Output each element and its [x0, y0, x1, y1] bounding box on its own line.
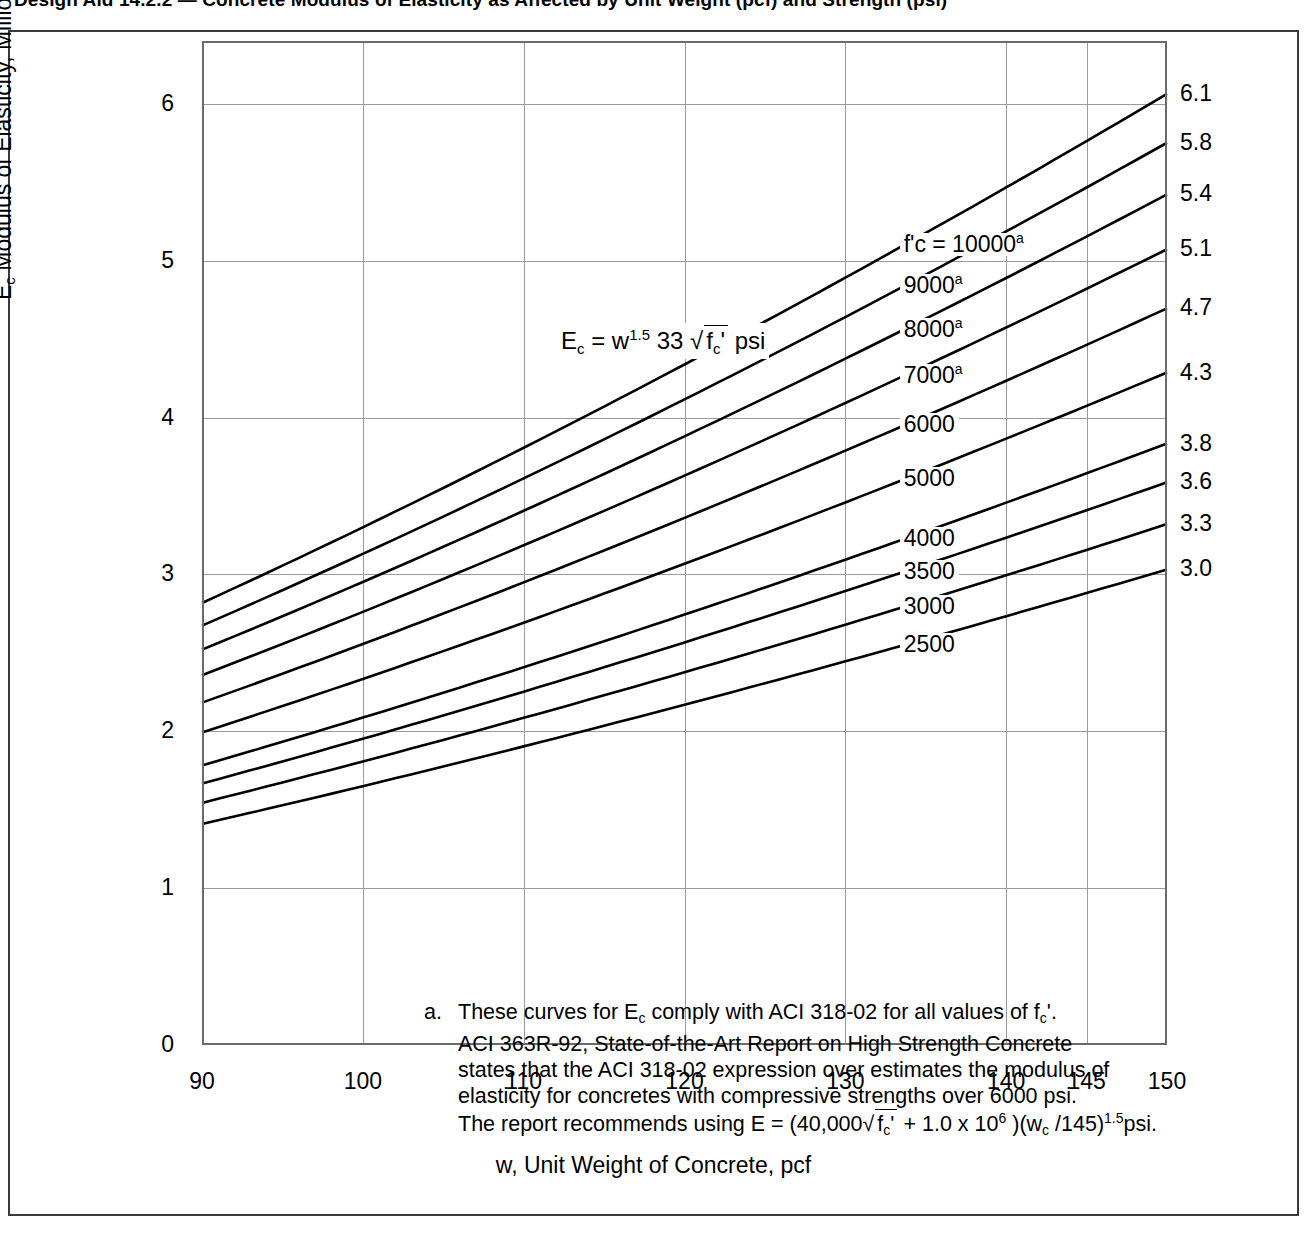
page-title-bar: Design Aid 14.2.2 — Concrete Modulus of … [0, 0, 1307, 13]
y-tick-label-1: 1 [130, 876, 174, 899]
curve-label-text: 6000 [904, 411, 955, 437]
end-value-fc-4000: 3.8 [1180, 432, 1212, 455]
footnote-line-2: ACI 363R-92, State-of-the-Art Report on … [458, 1031, 1164, 1057]
end-value-fc-3000: 3.3 [1180, 512, 1212, 535]
curve-layer [202, 41, 1167, 1045]
curve-label-text: 9000 [904, 272, 955, 298]
equation-lhs: E [561, 327, 577, 354]
curve-label-text: 8000 [904, 316, 955, 342]
y-axis-title: Ec Modulus of Elasticity, Million psi [0, 0, 18, 300]
end-value-fc-5000: 4.3 [1180, 361, 1212, 384]
curve-label-text: f'c = 10000 [904, 231, 1016, 257]
curve-label-fc-3500: 3500 [900, 560, 959, 583]
equation-radicand: fc' [704, 325, 728, 357]
y-tick-label-3: 3 [130, 562, 174, 585]
equation-units: psi [728, 327, 765, 354]
curve-fc-2500 [202, 569, 1167, 824]
curve-label-fc-6000: 6000 [900, 413, 959, 436]
equation-eq: = w [585, 327, 630, 354]
equation-lhs-sub: c [577, 340, 585, 357]
curve-fc-4000 [202, 444, 1167, 766]
x-tick-label-145: 145 [1047, 1070, 1127, 1093]
y-tick-label-5: 5 [130, 249, 174, 272]
curve-fc-8000 [202, 194, 1167, 649]
x-tick-label-130: 130 [805, 1070, 885, 1093]
curve-fc-5000 [202, 373, 1167, 733]
curve-label-fc-9000: 9000a [900, 274, 967, 297]
plot-area: f'c = 10000a9000a8000a7000a6000500040003… [202, 41, 1167, 1045]
footnote-superscript: a [955, 315, 963, 331]
x-tick-label-110: 110 [484, 1070, 564, 1093]
sqrt-icon: √ [863, 1112, 875, 1136]
equation-coefficient: 33 [650, 327, 690, 354]
x-tick-label-140: 140 [966, 1070, 1046, 1093]
end-value-fc-7000: 5.1 [1180, 237, 1212, 260]
footnote-line-5: The report recommends using E = (40,000√… [458, 1109, 1164, 1143]
curve-label-text: 3000 [904, 593, 955, 619]
page-title: Design Aid 14.2.2 — Concrete Modulus of … [14, 0, 947, 11]
x-axis-title: w, Unit Weight of Concrete, pcf [0, 1152, 1307, 1179]
x-tick-label-100: 100 [323, 1070, 403, 1093]
curve-label-fc-8000: 8000a [900, 318, 967, 341]
end-value-fc-2500: 3.0 [1180, 557, 1212, 580]
curve-label-fc-10000: f'c = 10000a [900, 233, 1028, 256]
y-tick-label-0: 0 [130, 1033, 174, 1056]
curve-label-fc-3000: 3000 [900, 595, 959, 618]
curve-label-text: 4000 [904, 525, 955, 551]
end-value-fc-9000: 5.8 [1180, 131, 1212, 154]
curve-label-fc-5000: 5000 [900, 467, 959, 490]
end-value-fc-6000: 4.7 [1180, 296, 1212, 319]
equation-w-exponent: 1.5 [629, 326, 650, 343]
end-value-fc-10000: 6.1 [1180, 82, 1212, 105]
curve-label-text: 7000 [904, 362, 955, 388]
y-tick-label-4: 4 [130, 406, 174, 429]
footnote-line-1-text: These curves for Ec comply with ACI 318-… [458, 999, 1057, 1031]
x-tick-label-90: 90 [162, 1070, 242, 1093]
y-tick-label-2: 2 [130, 719, 174, 742]
curve-label-text: 5000 [904, 465, 955, 491]
curve-label-fc-4000: 4000 [900, 527, 959, 550]
curve-label-fc-7000: 7000a [900, 364, 967, 387]
footnote-superscript: a [955, 272, 963, 288]
footnote-line-1: a. These curves for Ec comply with ACI 3… [424, 999, 1164, 1031]
x-tick-label-150: 150 [1127, 1070, 1207, 1093]
curve-label-text: 3500 [904, 558, 955, 584]
end-value-fc-3500: 3.6 [1180, 470, 1212, 493]
curve-fc-3000 [202, 524, 1167, 803]
x-tick-label-120: 120 [645, 1070, 725, 1093]
sqrt-icon: √ [690, 327, 703, 354]
footnote-marker: a. [424, 999, 458, 1031]
footnote-superscript: a [1016, 231, 1024, 247]
curve-fc-9000 [202, 143, 1167, 626]
curve-label-text: 2500 [904, 631, 955, 657]
curve-fc-3500 [202, 482, 1167, 783]
end-value-fc-8000: 5.4 [1180, 182, 1212, 205]
equation-annotation: Ec = w1.5 33 √fc' psi [557, 323, 769, 359]
footnote-superscript: a [955, 361, 963, 377]
curve-label-fc-2500: 2500 [900, 633, 959, 656]
y-tick-label-6: 6 [130, 92, 174, 115]
